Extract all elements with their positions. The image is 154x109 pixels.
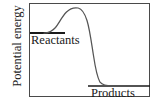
products-label: Products [91, 87, 135, 100]
reactants-label: Reactants [31, 34, 80, 47]
potential-energy-diagram: Potential energy Reactants Products [0, 0, 154, 109]
